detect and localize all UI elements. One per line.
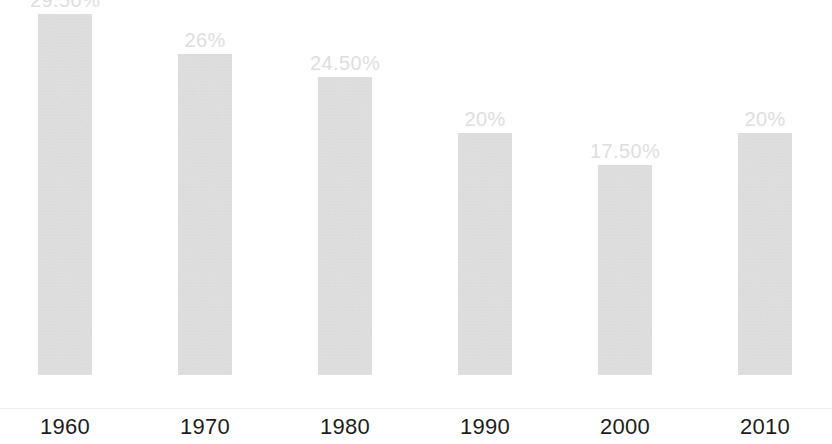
bar-group: 24.50% <box>318 0 372 375</box>
x-axis-label-2010: 2010 <box>716 414 814 440</box>
bar-group: 29.50% <box>38 0 92 375</box>
bar[interactable] <box>598 165 652 375</box>
bar-group: 17.50% <box>598 0 652 375</box>
bar-value-label: 24.50% <box>296 52 394 74</box>
bar-value-label: 29.50% <box>16 0 114 11</box>
bar[interactable] <box>38 14 92 375</box>
x-axis-label-1970: 1970 <box>156 414 254 440</box>
x-axis-label-2000: 2000 <box>576 414 674 440</box>
bar-chart: 29.50% 26% 24.50% 20% 17.50% 20% 1960 <box>0 0 832 444</box>
x-axis-line <box>0 408 832 409</box>
bar-value-label: 26% <box>156 29 254 51</box>
bar-value-label: 20% <box>436 108 534 130</box>
bar[interactable] <box>178 54 232 375</box>
plot-area: 29.50% 26% 24.50% 20% 17.50% 20% <box>0 0 832 410</box>
x-axis-label-1960: 1960 <box>16 414 114 440</box>
bar[interactable] <box>738 133 792 375</box>
bar-value-label: 20% <box>716 108 814 130</box>
x-axis-label-1980: 1980 <box>296 414 394 440</box>
bar[interactable] <box>318 77 372 375</box>
x-axis-label-1990: 1990 <box>436 414 534 440</box>
bar-value-label: 17.50% <box>576 140 674 162</box>
bar[interactable] <box>458 133 512 375</box>
bar-group: 26% <box>178 0 232 375</box>
bar-group: 20% <box>738 0 792 375</box>
bar-group: 20% <box>458 0 512 375</box>
